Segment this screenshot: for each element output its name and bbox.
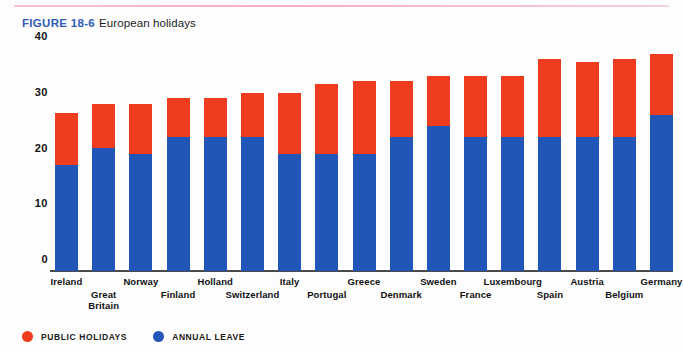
x-axis-label-sweden: Sweden (420, 276, 457, 287)
bar-switzerland[interactable] (241, 48, 264, 271)
bar-greece[interactable] (353, 48, 376, 271)
x-axis-label-italy: Italy (280, 276, 300, 287)
bar-segment-public-holidays (650, 54, 673, 115)
bar-segment-public-holidays (278, 93, 301, 154)
bar-segment-annual-leave (353, 154, 376, 271)
bar-ireland[interactable] (55, 48, 78, 271)
x-axis-label-holland: Holland (197, 276, 233, 287)
x-label-slot: Ireland (55, 273, 78, 319)
bar-segment-annual-leave (129, 154, 152, 271)
bar-segment-public-holidays (538, 59, 561, 137)
x-label-slot: Holland (204, 273, 227, 319)
bar-segment-annual-leave (464, 137, 487, 271)
bar-segment-public-holidays (613, 59, 636, 137)
bar-segment-public-holidays (427, 76, 450, 126)
x-axis-label-luxembourg: Luxembourg (483, 276, 542, 287)
x-label-slot: Sweden (427, 273, 450, 319)
x-axis-label-denmark: Denmark (381, 289, 422, 300)
x-axis-label-belgium: Belgium (605, 289, 643, 300)
x-axis-label-switzerland: Switzerland (225, 289, 279, 300)
bar-finland[interactable] (167, 48, 190, 271)
bar-segment-annual-leave (501, 137, 524, 271)
x-label-slot: Belgium (613, 273, 636, 319)
bar-italy[interactable] (278, 48, 301, 271)
top-divider-rule (14, 5, 669, 7)
legend-label: ANNUAL LEAVE (172, 332, 245, 342)
bar-segment-public-holidays (464, 76, 487, 137)
circle-icon (153, 331, 164, 342)
bar-segment-annual-leave (427, 126, 450, 271)
bar-segment-annual-leave (167, 137, 190, 271)
x-label-slot: Switzerland (241, 273, 264, 319)
bar-segment-public-holidays (501, 76, 524, 137)
x-axis-label-germany: Germany (641, 276, 683, 287)
bar-france[interactable] (464, 48, 487, 271)
bar-segment-public-holidays (315, 84, 338, 154)
legend-item-annual-leave[interactable]: ANNUAL LEAVE (153, 331, 245, 342)
bar-austria[interactable] (576, 48, 599, 271)
x-axis-label-spain: Spain (537, 289, 563, 300)
x-axis-labels: IrelandGreat BritainNorwayFinlandHolland… (55, 273, 673, 319)
y-axis-tick-0: 0 (41, 253, 48, 265)
y-axis-tick-30: 30 (35, 86, 48, 98)
y-axis-tick-40: 40 (35, 30, 48, 42)
figure-title: European holidays (99, 17, 196, 29)
bar-segment-annual-leave (204, 137, 227, 271)
x-label-slot: Portugal (315, 273, 338, 319)
circle-icon (22, 331, 33, 342)
bar-segment-annual-leave (576, 137, 599, 271)
bar-segment-public-holidays (353, 81, 376, 153)
x-label-slot: Greece (353, 273, 376, 319)
x-axis-label-portugal: Portugal (307, 289, 346, 300)
bar-segment-public-holidays (55, 113, 78, 165)
x-label-slot: Finland (167, 273, 190, 319)
bar-norway[interactable] (129, 48, 152, 271)
bar-germany[interactable] (650, 48, 673, 271)
bar-segment-annual-leave (390, 137, 413, 271)
y-axis-tick-10: 10 (35, 197, 48, 209)
x-label-slot: Denmark (390, 273, 413, 319)
y-axis-tick-20: 20 (35, 142, 48, 154)
bar-spain[interactable] (538, 48, 561, 271)
bar-luxembourg[interactable] (501, 48, 524, 271)
bar-belgium[interactable] (613, 48, 636, 271)
figure-container: FIGURE 18-6European holidays 010203040 I… (0, 0, 683, 364)
bar-segment-annual-leave (241, 137, 264, 271)
bottom-band (0, 351, 683, 364)
bar-segment-annual-leave (538, 137, 561, 271)
bar-portugal[interactable] (315, 48, 338, 271)
x-axis-label-norway: Norway (123, 276, 158, 287)
bar-holland[interactable] (204, 48, 227, 271)
legend-item-public-holidays[interactable]: PUBLIC HOLIDAYS (22, 331, 127, 342)
bar-segment-annual-leave (650, 115, 673, 271)
bar-segment-public-holidays (241, 93, 264, 138)
x-axis-label-france: France (460, 289, 492, 300)
x-axis-label-greece: Greece (348, 276, 381, 287)
legend-label: PUBLIC HOLIDAYS (41, 332, 127, 342)
bar-segment-annual-leave (315, 154, 338, 271)
bar-series-group (55, 48, 673, 271)
x-axis-label-great-britain: Great Britain (81, 289, 127, 311)
bar-segment-annual-leave (278, 154, 301, 271)
x-axis-label-finland: Finland (161, 289, 195, 300)
bar-segment-public-holidays (129, 104, 152, 154)
x-label-slot: Spain (538, 273, 561, 319)
figure-caption: FIGURE 18-6European holidays (22, 17, 196, 29)
x-label-slot: Norway (129, 273, 152, 319)
bar-segment-public-holidays (390, 81, 413, 137)
figure-number: FIGURE 18-6 (22, 17, 95, 29)
bar-segment-annual-leave (613, 137, 636, 271)
x-label-slot: Italy (278, 273, 301, 319)
bar-sweden[interactable] (427, 48, 450, 271)
bar-segment-public-holidays (167, 98, 190, 137)
x-label-slot: Germany (650, 273, 673, 319)
plot-area: 010203040 (55, 48, 673, 271)
x-label-slot: Austria (576, 273, 599, 319)
bar-denmark[interactable] (390, 48, 413, 271)
bar-segment-annual-leave (92, 148, 115, 271)
x-axis-label-ireland: Ireland (51, 276, 83, 287)
bar-great-britain[interactable] (92, 48, 115, 271)
bar-segment-annual-leave (55, 165, 78, 271)
bar-segment-public-holidays (576, 62, 599, 137)
x-label-slot: Luxembourg (501, 273, 524, 319)
